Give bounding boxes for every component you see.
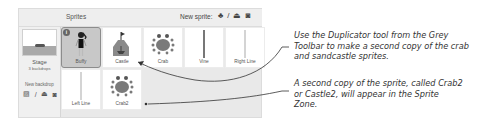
- callout-arrows: [0, 0, 481, 129]
- callout-duplicate-instruction: Use the Duplicator tool from the Grey To…: [294, 30, 479, 62]
- callout-sprite-zone-note: A second copy of the sprite, called Crab…: [294, 78, 464, 110]
